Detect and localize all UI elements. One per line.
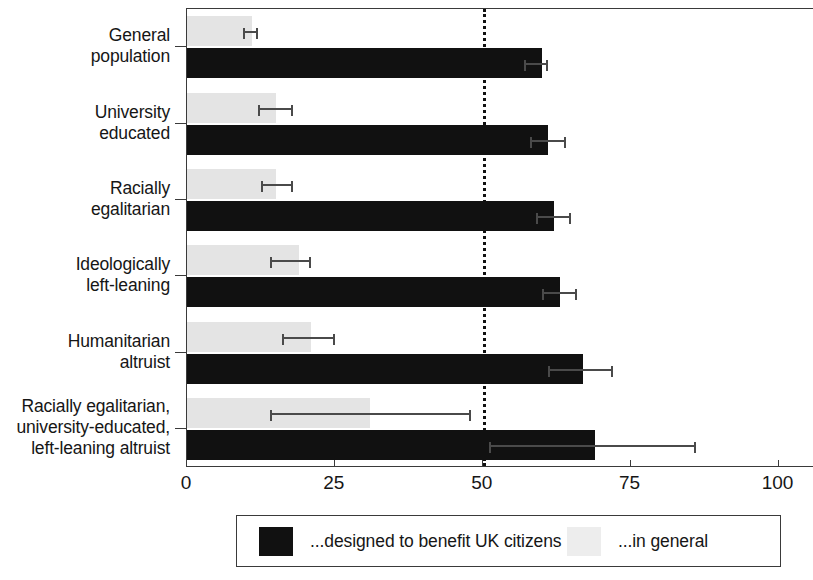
error-cap-low (548, 366, 550, 377)
category-tick (175, 275, 186, 276)
category-label: Raciallyegalitarian (0, 178, 170, 220)
category-tick (175, 46, 186, 47)
x-tick (334, 460, 335, 467)
error-cap-high (291, 181, 293, 192)
error-bar-in-general (282, 337, 335, 339)
legend-swatch-light (567, 527, 601, 556)
error-bar-uk-citizens (536, 216, 571, 218)
legend-label-light: ...in general (618, 531, 708, 552)
error-cap-high (291, 105, 293, 116)
error-cap-high (575, 289, 577, 300)
x-axis: 0255075100 (186, 466, 813, 512)
category-label-line: egalitarian (0, 199, 170, 220)
x-tick-label: 100 (762, 472, 794, 494)
category-label-line: left-leaning (0, 275, 170, 296)
category-tick (175, 199, 186, 200)
error-cap-high (333, 334, 335, 345)
error-cap-low (542, 289, 544, 300)
error-cap-low (524, 60, 526, 71)
error-bar-in-general (258, 108, 293, 110)
x-tick-label: 25 (323, 472, 344, 494)
error-bar-in-general (261, 184, 294, 186)
legend-entry-uk-citizens: ...designed to benefit UK citizens (259, 516, 561, 566)
error-cap-low (489, 442, 491, 453)
error-bar-in-general (270, 260, 311, 262)
error-cap-low (261, 181, 263, 192)
bar-uk-citizens (187, 277, 560, 307)
error-bar-in-general (243, 31, 258, 33)
error-cap-high (569, 213, 571, 224)
category-label-line: Humanitarian (0, 331, 170, 352)
plot-area (186, 8, 813, 466)
bar-uk-citizens (187, 48, 542, 78)
category-label-line: population (0, 46, 170, 67)
error-bar-uk-citizens (542, 292, 577, 294)
x-axis-line (186, 466, 813, 467)
error-bar-uk-citizens (548, 369, 613, 371)
legend-swatch-dark (259, 527, 293, 556)
category-label-line: educated (0, 123, 170, 144)
error-cap-high (469, 410, 471, 421)
category-label-line: left-leaning altruist (0, 438, 170, 459)
chart-figure: GeneralpopulationUniversityeducatedRacia… (0, 0, 813, 580)
x-tick (482, 460, 483, 467)
category-label: Ideologicallyleft-leaning (0, 254, 170, 296)
error-cap-low (270, 257, 272, 268)
error-cap-high (546, 60, 548, 71)
category-label-line: Ideologically (0, 254, 170, 275)
category-label-line: Racially egalitarian, (0, 396, 170, 417)
error-cap-high (611, 366, 613, 377)
error-cap-low (258, 105, 260, 116)
legend-entry-in-general: ...in general (567, 516, 708, 566)
error-bar-uk-citizens (530, 140, 565, 142)
error-bar-in-general (270, 413, 471, 415)
error-cap-low (270, 410, 272, 421)
error-cap-high (256, 28, 258, 39)
category-label-line: altruist (0, 352, 170, 373)
category-label-line: University (0, 102, 170, 123)
x-tick-label: 50 (471, 472, 492, 494)
category-label-line: Racially (0, 178, 170, 199)
category-tick (175, 123, 186, 124)
category-label: Racially egalitarian,university-educated… (0, 396, 170, 459)
error-cap-low (530, 137, 532, 148)
category-label: Universityeducated (0, 102, 170, 144)
bar-uk-citizens (187, 201, 554, 231)
error-bar-uk-citizens (489, 445, 696, 447)
bar-uk-citizens (187, 125, 548, 155)
x-tick-label: 75 (619, 472, 640, 494)
x-tick (778, 460, 779, 467)
bar-uk-citizens (187, 354, 583, 384)
category-axis: GeneralpopulationUniversityeducatedRacia… (0, 8, 178, 466)
error-bar-uk-citizens (524, 63, 548, 65)
error-cap-high (309, 257, 311, 268)
chart-legend: ...designed to benefit UK citizens ...in… (236, 515, 781, 567)
legend-label-dark: ...designed to benefit UK citizens (310, 531, 561, 552)
error-cap-high (694, 442, 696, 453)
category-label-line: General (0, 25, 170, 46)
category-tick (175, 352, 186, 353)
x-tick (630, 460, 631, 467)
category-label: Humanitarianaltruist (0, 331, 170, 373)
error-cap-low (536, 213, 538, 224)
error-cap-high (564, 137, 566, 148)
x-tick-label: 0 (181, 472, 192, 494)
x-tick (186, 460, 187, 467)
error-cap-low (243, 28, 245, 39)
category-label: Generalpopulation (0, 25, 170, 67)
category-label-line: university-educated, (0, 417, 170, 438)
category-tick (175, 428, 186, 429)
error-cap-low (282, 334, 284, 345)
